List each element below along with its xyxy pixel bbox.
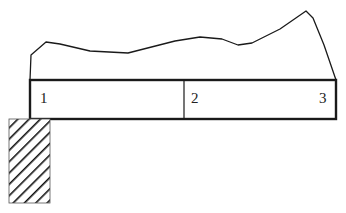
fixed-support-hatched (9, 119, 50, 203)
point-label-3: 3 (319, 90, 327, 106)
beam-diagram: 1 2 3 (0, 0, 346, 213)
distributed-load-curve (30, 11, 336, 80)
point-label-1: 1 (40, 90, 48, 106)
point-label-2: 2 (191, 90, 199, 106)
beam (30, 80, 336, 119)
